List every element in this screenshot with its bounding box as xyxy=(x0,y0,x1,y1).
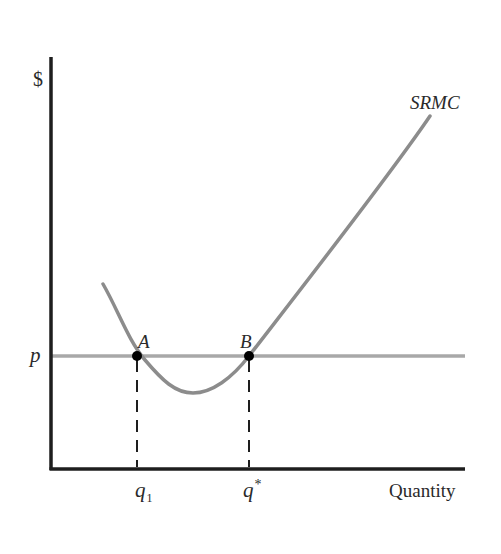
srmc-diagram xyxy=(0,0,501,554)
x-axis-label: Quantity xyxy=(389,481,456,500)
point-a-marker xyxy=(132,351,142,361)
qstar-superscript: * xyxy=(255,477,262,492)
srmc-label: SRMC xyxy=(410,93,460,112)
srmc-curve xyxy=(103,116,430,393)
y-axis-label: $ xyxy=(33,69,43,89)
q1-subscript: 1 xyxy=(147,491,153,505)
point-b-marker xyxy=(244,351,254,361)
qstar-base: q xyxy=(243,478,254,502)
q1-tick-label: q1 xyxy=(135,480,153,501)
point-b-label: B xyxy=(240,332,252,351)
point-a-label: A xyxy=(138,332,150,351)
qstar-tick-label: q* xyxy=(243,480,262,501)
q1-base: q xyxy=(135,478,146,502)
price-label: p xyxy=(30,345,41,366)
